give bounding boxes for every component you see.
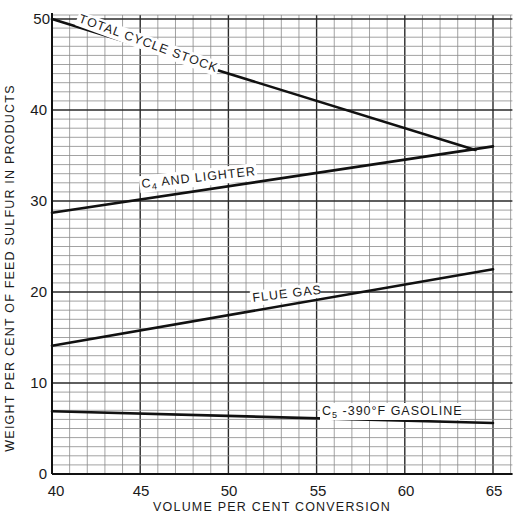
line-chart: 0 10 20 30 40 50 40 45 50 55 60 65 VOLUM… bbox=[0, 0, 515, 522]
x-tick-40: 40 bbox=[48, 482, 65, 499]
x-tick-60: 60 bbox=[398, 482, 415, 499]
y-tick-0: 0 bbox=[39, 465, 47, 482]
y-tick-50: 50 bbox=[33, 10, 50, 27]
series-label-c4-and-lighter: C4 AND LIGHTER bbox=[139, 163, 258, 193]
x-axis-ticks: 40 45 50 55 60 65 bbox=[48, 482, 503, 499]
x-tick-45: 45 bbox=[133, 482, 150, 499]
series-label-c5-gasoline: C5 -390°F GASOLINE bbox=[320, 403, 463, 420]
y-axis-label: WEIGHT PER CENT OF FEED SULFUR IN PRODUC… bbox=[3, 84, 17, 451]
series-c4-and-lighter bbox=[52, 146, 493, 212]
x-tick-55: 55 bbox=[310, 482, 327, 499]
x-tick-50: 50 bbox=[221, 482, 238, 499]
series-lines bbox=[52, 19, 493, 423]
series-label-total-cycle-stock: TOTAL CYCLE STOCK bbox=[75, 11, 221, 76]
label-c5-gasoline: C5 -390°F GASOLINE bbox=[322, 404, 463, 420]
y-tick-10: 10 bbox=[30, 374, 47, 391]
label-total-cycle-stock: TOTAL CYCLE STOCK bbox=[77, 12, 220, 75]
y-tick-40: 40 bbox=[30, 101, 47, 118]
x-axis-label: VOLUME PER CENT CONVERSION bbox=[153, 500, 391, 514]
series-flue-gas bbox=[52, 269, 493, 345]
y-tick-30: 30 bbox=[30, 192, 47, 209]
series-label-flue-gas: FLUE GAS bbox=[250, 283, 323, 307]
y-axis-ticks: 0 10 20 30 40 50 bbox=[30, 10, 50, 482]
y-tick-20: 20 bbox=[30, 283, 47, 300]
x-tick-65: 65 bbox=[486, 482, 503, 499]
